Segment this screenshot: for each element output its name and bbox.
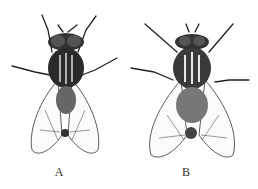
fly-b-drawing — [129, 0, 258, 189]
fly-a-drawing — [0, 0, 129, 189]
figure-label-b: B — [176, 165, 196, 180]
fly-illustration-b: B — [129, 0, 258, 189]
fly-illustration-a: A — [0, 0, 129, 189]
figure-label-a: A — [49, 165, 69, 180]
